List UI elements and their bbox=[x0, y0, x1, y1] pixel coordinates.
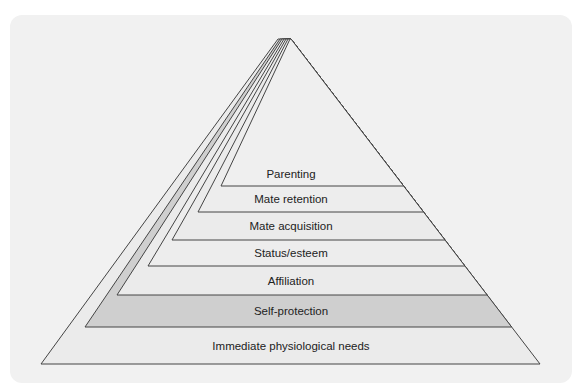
layer-label: Parenting bbox=[266, 168, 315, 180]
layer-label: Affiliation bbox=[268, 275, 314, 287]
pyramid-diagram: Immediate physiological needsSelf-protec… bbox=[0, 0, 584, 391]
layer-label: Mate acquisition bbox=[249, 220, 332, 232]
layer-label: Mate retention bbox=[254, 193, 328, 205]
layer-label: Status/esteem bbox=[254, 247, 328, 259]
layer-label: Self-protection bbox=[254, 305, 328, 317]
layer-label: Immediate physiological needs bbox=[212, 340, 370, 352]
